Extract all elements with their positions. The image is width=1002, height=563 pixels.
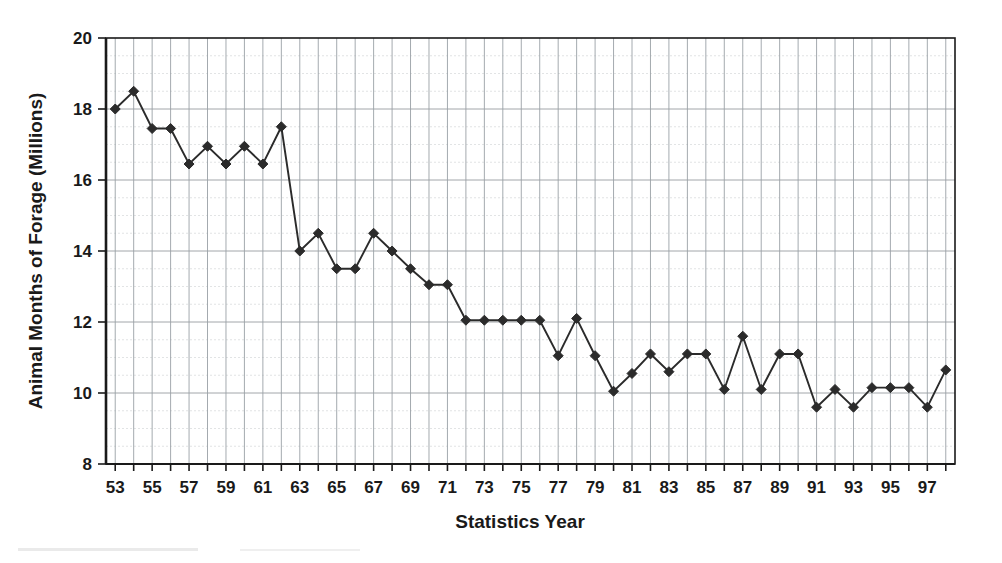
x-axis-title: Statistics Year (455, 511, 585, 532)
x-tick-label: 79 (586, 478, 605, 497)
x-tick-label: 75 (512, 478, 531, 497)
y-tick-label: 8 (83, 455, 92, 474)
y-tick-label: 20 (73, 29, 92, 48)
y-tick-label: 18 (73, 100, 92, 119)
x-tick-label: 85 (696, 478, 715, 497)
x-tick-label: 93 (844, 478, 863, 497)
x-tick-label: 53 (106, 478, 125, 497)
x-tick-label: 87 (733, 478, 752, 497)
scan-artifact (18, 548, 198, 551)
x-tick-label: 65 (327, 478, 346, 497)
x-tick-label: 83 (659, 478, 678, 497)
x-tick-label: 63 (290, 478, 309, 497)
x-tick-label: 61 (253, 478, 272, 497)
y-tick-label: 16 (73, 171, 92, 190)
x-tick-label: 67 (364, 478, 383, 497)
x-tick-label: 77 (549, 478, 568, 497)
x-tick-label: 81 (623, 478, 642, 497)
x-axis-tick-labels: 5355575961636567697173757779818385878991… (106, 478, 937, 497)
y-tick-label: 14 (73, 242, 92, 261)
y-axis-title: Animal Months of Forage (Millions) (25, 93, 46, 410)
x-tick-label: 73 (475, 478, 494, 497)
x-tick-label: 59 (217, 478, 236, 497)
forage-line-chart: 8101214161820 53555759616365676971737577… (0, 0, 1002, 563)
chart-container: 8101214161820 53555759616365676971737577… (0, 0, 1002, 563)
x-tick-label: 71 (438, 478, 457, 497)
x-tick-label: 69 (401, 478, 420, 497)
scan-artifact-secondary (240, 549, 360, 551)
y-tick-label: 12 (73, 313, 92, 332)
x-tick-label: 91 (807, 478, 826, 497)
x-tick-label: 55 (143, 478, 162, 497)
x-tick-label: 97 (918, 478, 937, 497)
x-tick-label: 95 (881, 478, 900, 497)
x-tick-label: 57 (180, 478, 199, 497)
y-tick-label: 10 (73, 384, 92, 403)
x-tick-label: 89 (770, 478, 789, 497)
